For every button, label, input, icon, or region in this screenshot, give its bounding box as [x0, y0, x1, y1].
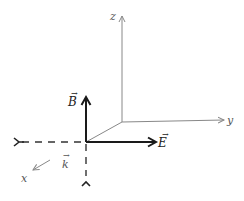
- b-field-vector: B →: [67, 89, 86, 142]
- y-axis-label: y: [226, 114, 234, 127]
- k-vector-label: k →: [62, 151, 70, 171]
- b-arrow-accent: →: [71, 89, 78, 98]
- dashed-horizontal: [14, 138, 84, 146]
- x-axis-label: x: [21, 172, 28, 185]
- y-axis: y: [122, 114, 234, 127]
- fletching-left-icon: [14, 138, 24, 146]
- z-axis-label: z: [109, 10, 116, 23]
- origin-connector-line: [86, 122, 122, 142]
- k-arrow-accent: →: [63, 151, 70, 160]
- dashed-vertical: [82, 144, 90, 186]
- z-axis: z: [109, 10, 122, 122]
- em-wave-diagram: z y x k → B → E →: [0, 0, 244, 201]
- fletching-bottom-icon: [82, 182, 90, 186]
- x-axis: x: [21, 160, 50, 185]
- e-field-vector: E →: [86, 130, 169, 150]
- e-arrow-accent: →: [162, 130, 169, 139]
